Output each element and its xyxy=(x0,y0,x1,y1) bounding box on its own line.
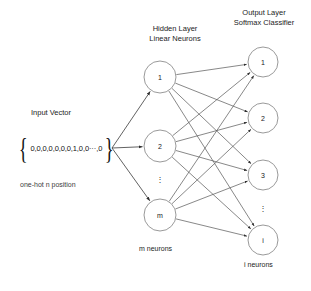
hidden-layer-ellipsis: ⋮ xyxy=(156,175,164,184)
connection-edge xyxy=(112,148,150,201)
hidden-neurons-caption: m neurons xyxy=(139,245,172,252)
hidden-layer-header: Hidden Layer Linear Neurons xyxy=(137,24,213,43)
connection-edge xyxy=(169,91,254,226)
connection-edge xyxy=(176,219,247,236)
one-hot-note: one-hot n position xyxy=(20,181,76,188)
output-node-label-1: 1 xyxy=(261,59,265,66)
neural-network-diagram: 12m 123i ⋮⋮ Hidden Layer Linear Neurons … xyxy=(0,0,311,291)
input-vector-label: Input Vector xyxy=(31,108,71,117)
output-layer-header-line2: Softmax Classifier xyxy=(222,18,306,28)
output-layer-header: Output Layer Softmax Classifier xyxy=(222,8,306,27)
hidden-layer-header-line2: Linear Neurons xyxy=(137,34,213,44)
output-neurons-caption: i neurons xyxy=(244,261,273,268)
output-layer-header-line1: Output Layer xyxy=(222,8,306,18)
output-node-label-2: 2 xyxy=(261,115,265,122)
connection-edge xyxy=(176,64,246,74)
hidden-layer-nodes: 12m xyxy=(144,61,176,231)
connection-edge xyxy=(175,181,247,209)
connection-edge xyxy=(172,88,251,163)
connection-edge xyxy=(112,91,150,148)
hidden-to-output-edges xyxy=(169,64,254,236)
hidden-node-label-2: 2 xyxy=(158,143,162,150)
hidden-layer-header-line1: Hidden Layer xyxy=(137,24,213,34)
output-node-label-3: 3 xyxy=(261,172,265,179)
input-vector-expression: { 0,0,0,0,0,0,0,1,0,0···,0 } xyxy=(16,133,117,163)
hidden-node-label-1: 1 xyxy=(158,74,162,81)
connection-edge xyxy=(176,150,247,170)
connection-edge xyxy=(175,83,247,112)
hidden-node-label-m: m xyxy=(157,212,163,219)
brace-close-glyph: } xyxy=(105,133,114,163)
brace-open-glyph: { xyxy=(19,133,28,163)
output-layer-ellipsis: ⋮ xyxy=(259,204,267,213)
input-vector-values: 0,0,0,0,0,0,0,1,0,0···,0 xyxy=(30,144,102,153)
